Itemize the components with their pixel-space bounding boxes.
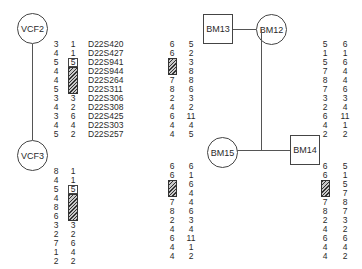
- vcf3-label: VCF3: [21, 151, 44, 161]
- bm14-label: BM14: [293, 145, 317, 155]
- allele: 2: [340, 252, 350, 261]
- allele: 5: [51, 130, 61, 139]
- vcf2-haplotype-a: 3 4 5 4 4 5 3 4 3 4 5: [51, 40, 61, 139]
- allele: 6: [167, 49, 177, 58]
- bm15-haplotype-b: 6 1 6 4 4 6 3 4 11 1 2: [186, 162, 196, 261]
- bm15-haplotype-a: 6 6 7 8 2 4 6 4 4: [167, 162, 177, 261]
- vcf2-deletion-hatch: [68, 67, 78, 94]
- allele: 4: [167, 252, 177, 261]
- individual-vcf2: VCF2: [17, 13, 48, 44]
- allele: 6: [167, 171, 177, 180]
- allele: 6: [320, 171, 330, 180]
- bm14-haplotype-b: 5 1 5 7 8 7 3 2 6 4 2: [340, 162, 350, 261]
- bm14-haplotype-a: 6 6 7 8 2 4 6 4 4: [320, 162, 330, 261]
- individual-bm13: BM13: [203, 14, 233, 44]
- allele: 2: [68, 130, 78, 139]
- marker-list: D22S420 D22S427 D22S941 D22S944 D22S264 …: [88, 40, 123, 139]
- bm12-haplotype-b: 6 1 6 4 4 6 3 4 11 1 2: [340, 40, 350, 139]
- bm15-deletion-hatch: [168, 180, 177, 197]
- descent-line-vcf2-vcf3: [32, 44, 33, 140]
- allele: 2: [320, 130, 330, 139]
- bm12-label: BM12: [260, 25, 284, 35]
- bm13-label: BM13: [206, 24, 230, 34]
- sibship-line: [237, 150, 290, 151]
- individual-bm15: BM15: [207, 137, 238, 168]
- allele: 4: [167, 130, 177, 139]
- mid-upper-haplotype-b: 5 2 3 8 8 6 3 2 11 4 5: [186, 40, 196, 139]
- vcf3-haplotype-a: 8 4 5 4 8 6 3 2 7 1 2: [51, 167, 61, 266]
- allele-boxed: 5: [68, 58, 78, 67]
- individual-bm14: BM14: [290, 135, 320, 165]
- bm12-haplotype-a: 5 1 5 7 8 7 3 2 6 4 2: [320, 40, 330, 139]
- allele-boxed: 5: [68, 185, 78, 194]
- vcf3-deletion-hatch: [68, 194, 78, 221]
- individual-vcf3: VCF3: [17, 140, 48, 171]
- allele: 2: [68, 257, 78, 266]
- allele: 4: [320, 252, 330, 261]
- allele: 5: [186, 130, 196, 139]
- mid-upper-deletion-hatch: [168, 58, 177, 75]
- marker-label: D22S257: [88, 130, 123, 139]
- bm15-label: BM15: [211, 148, 235, 158]
- allele: 2: [51, 257, 61, 266]
- allele: 2: [186, 252, 196, 261]
- bm14-deletion-hatch: [321, 180, 330, 197]
- allele: 2: [340, 130, 350, 139]
- descent-line: [261, 29, 262, 150]
- vcf2-label: VCF2: [21, 24, 44, 34]
- marriage-line: [233, 29, 256, 30]
- mid-upper-haplotype-a: 6 6 7 8 2 4 6 4 4: [167, 40, 177, 139]
